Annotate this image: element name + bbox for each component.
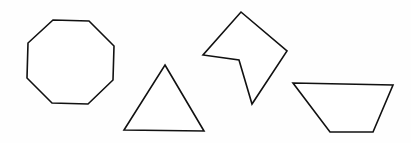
- octagon-shape: [27, 20, 114, 104]
- shapes-svg: [0, 0, 411, 143]
- triangle-shape: [124, 65, 204, 131]
- shapes-canvas: [0, 0, 411, 143]
- concave-pentagon-shape: [203, 12, 287, 104]
- trapezoid-shape: [293, 83, 393, 132]
